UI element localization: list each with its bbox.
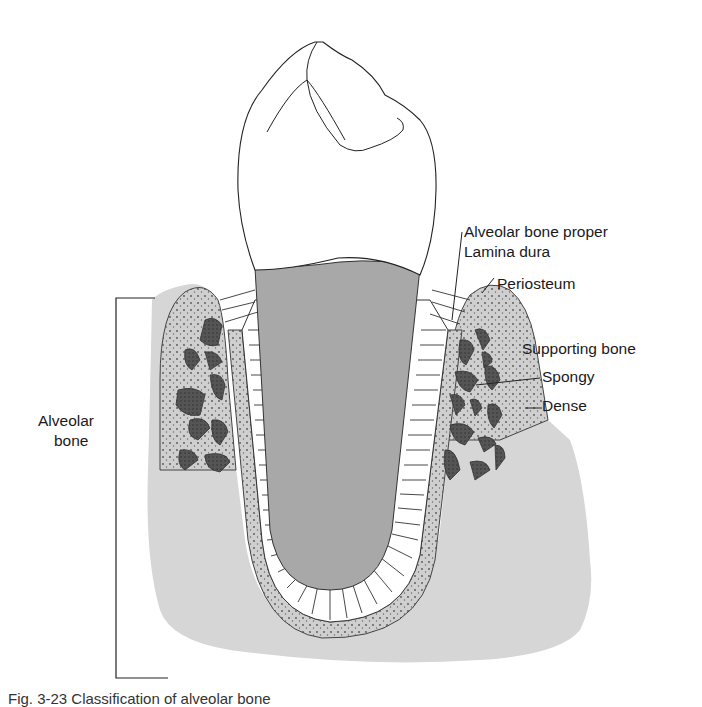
label-supporting-bone: Supporting bone: [522, 340, 636, 359]
label-spongy: Spongy: [542, 368, 595, 387]
label-alveolar-bone-proper: Alveolar bone proper: [464, 223, 608, 242]
label-dense: Dense: [542, 397, 587, 416]
label-lamina-dura: Lamina dura: [464, 243, 550, 262]
label-alveolar-bone-line2: bone: [54, 432, 88, 451]
left-crest-cortical: [160, 288, 236, 471]
figure-caption: Fig. 3-23 Classification of alveolar bon…: [8, 690, 271, 707]
label-periosteum: Periosteum: [497, 275, 575, 294]
tooth-crown: [238, 42, 436, 275]
label-alveolar-bone-line1: Alveolar: [38, 412, 94, 431]
